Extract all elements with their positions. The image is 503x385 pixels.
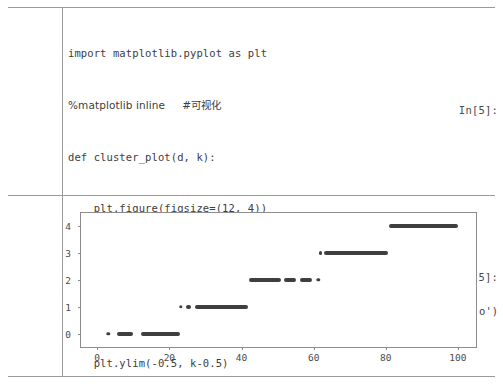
scatter-plot-axes: 02040608010001234 bbox=[80, 212, 477, 348]
data-point-run bbox=[324, 251, 387, 255]
x-tick-label: 0 bbox=[94, 352, 100, 363]
x-tick-label: 60 bbox=[308, 352, 319, 363]
x-tick-label: 40 bbox=[236, 352, 247, 363]
code-line: import matplotlib.pyplot as plt bbox=[68, 45, 498, 62]
x-tick-mark bbox=[97, 347, 98, 350]
data-point-run bbox=[186, 305, 191, 309]
y-tick-mark bbox=[78, 280, 81, 281]
y-tick-label: 3 bbox=[65, 248, 71, 259]
data-point-run bbox=[300, 278, 312, 282]
data-point bbox=[317, 278, 320, 281]
data-point bbox=[179, 305, 182, 308]
y-tick-label: 2 bbox=[65, 275, 71, 286]
x-tick-mark bbox=[242, 347, 243, 350]
cell-divider-bottom bbox=[8, 376, 495, 377]
data-point-run bbox=[195, 305, 248, 309]
jupyter-notebook: In[5]: import matplotlib.pyplot as plt %… bbox=[0, 0, 503, 385]
x-tick-mark bbox=[314, 347, 315, 350]
data-point-run bbox=[284, 278, 296, 282]
input-gutter-divider bbox=[62, 8, 63, 195]
y-tick-label: 1 bbox=[65, 301, 71, 312]
code-line: %matplotlib inline #可视化 bbox=[68, 97, 498, 114]
data-point-run bbox=[117, 332, 133, 336]
cell-divider-top bbox=[8, 7, 495, 8]
x-tick-label: 100 bbox=[449, 352, 466, 363]
y-tick-mark bbox=[78, 226, 81, 227]
data-point-run bbox=[389, 224, 458, 228]
data-point-run bbox=[141, 332, 180, 336]
y-tick-mark bbox=[78, 307, 81, 308]
x-tick-mark bbox=[169, 347, 170, 350]
code-line: def cluster_plot(d, k): bbox=[68, 149, 498, 166]
x-tick-mark bbox=[458, 347, 459, 350]
y-tick-label: 0 bbox=[65, 328, 71, 339]
y-tick-mark bbox=[78, 334, 81, 335]
y-tick-mark bbox=[78, 253, 81, 254]
data-point bbox=[107, 332, 110, 335]
x-tick-mark bbox=[386, 347, 387, 350]
x-tick-label: 80 bbox=[380, 352, 391, 363]
output-figure: 02040608010001234 bbox=[62, 196, 503, 376]
data-point-run bbox=[249, 278, 281, 282]
data-point-run bbox=[319, 251, 322, 255]
x-tick-label: 20 bbox=[164, 352, 175, 363]
y-tick-label: 4 bbox=[65, 221, 71, 232]
